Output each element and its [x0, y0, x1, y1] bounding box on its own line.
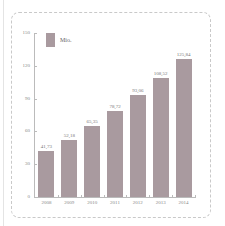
bar-2013 — [153, 78, 169, 197]
y-axis — [34, 33, 35, 198]
y-tick-mark — [34, 197, 37, 198]
legend-swatch — [46, 33, 55, 47]
bar-value-label: 41,73 — [34, 144, 58, 149]
y-tick-label: 150 — [18, 30, 30, 35]
bar-2009 — [61, 140, 77, 197]
bar-2011 — [107, 111, 123, 197]
bar-value-label: 108,52 — [149, 71, 173, 76]
x-tick-label: 2009 — [57, 200, 81, 205]
bar-value-label: 125,84 — [172, 52, 196, 57]
x-tick-mark — [81, 195, 82, 198]
bar-value-label: 78,72 — [103, 104, 127, 109]
x-tick-label: 2014 — [172, 200, 196, 205]
x-tick-label: 2010 — [80, 200, 104, 205]
x-tick-label: 2012 — [126, 200, 150, 205]
bar-value-label: 52,18 — [57, 133, 81, 138]
x-tick-mark — [58, 195, 59, 198]
x-tick-mark — [104, 195, 105, 198]
y-tick-label: 90 — [18, 96, 30, 101]
y-tick-mark — [34, 131, 37, 132]
y-tick-label: 60 — [18, 128, 30, 133]
y-tick-label: 30 — [18, 161, 30, 166]
bar-value-label: 65,35 — [80, 119, 104, 124]
bar-2008 — [38, 151, 54, 197]
x-tick-mark — [172, 195, 173, 198]
y-tick-mark — [34, 164, 37, 165]
y-tick-label: 0 — [18, 194, 30, 199]
x-tick-mark — [195, 195, 196, 198]
x-tick-label: 2013 — [149, 200, 173, 205]
bar-value-label: 93,06 — [126, 88, 150, 93]
y-tick-mark — [34, 66, 37, 67]
bar-2010 — [84, 126, 100, 197]
x-tick-label: 2008 — [34, 200, 58, 205]
bar-chart: Mio. 030609012015041,73200852,18200965,3… — [0, 0, 225, 226]
y-tick-mark — [34, 99, 37, 100]
y-tick-label: 120 — [18, 63, 30, 68]
y-tick-mark — [34, 33, 37, 34]
x-tick-mark — [126, 195, 127, 198]
x-tick-mark — [149, 195, 150, 198]
bar-2012 — [130, 95, 146, 197]
x-tick-label: 2011 — [103, 200, 127, 205]
legend-label: Mio. — [60, 37, 72, 43]
bar-2014 — [176, 59, 192, 197]
